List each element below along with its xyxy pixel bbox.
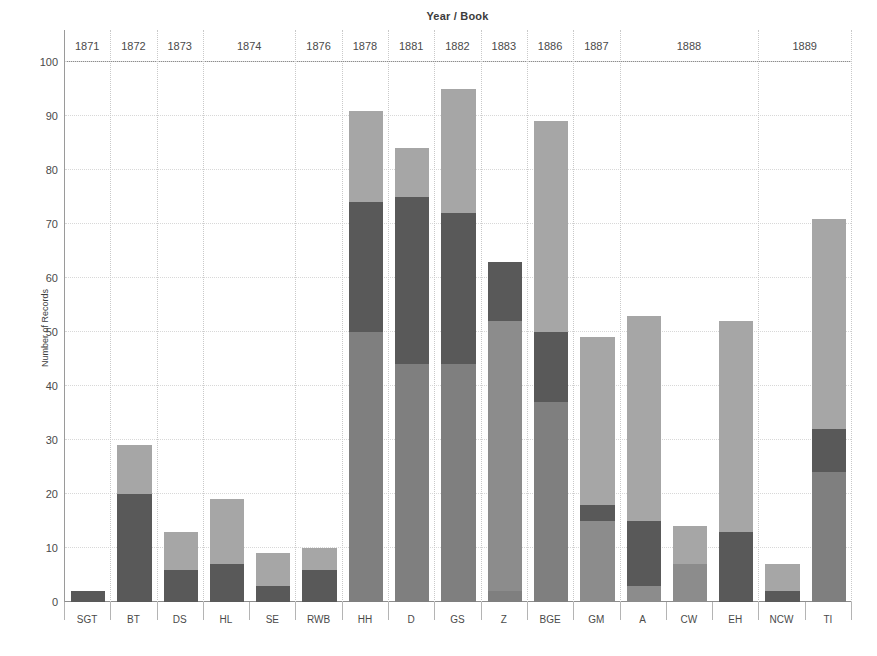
year-label-1887: 1887 — [573, 30, 619, 62]
y-tick-label-60: 60 — [46, 272, 65, 284]
bar-segment-CW-1[interactable] — [673, 564, 707, 602]
year-label-1876: 1876 — [295, 30, 341, 62]
bar-segment-HH-2[interactable] — [349, 202, 383, 332]
book-label-GM: GM — [573, 606, 619, 632]
bar-EH[interactable] — [719, 62, 753, 602]
bar-segment-NCW-1[interactable] — [765, 591, 799, 602]
bar-SE[interactable] — [256, 62, 290, 602]
bar-segment-A-3[interactable] — [627, 316, 661, 521]
bar-BT[interactable] — [117, 62, 151, 602]
bar-segment-EH-2[interactable] — [719, 321, 753, 532]
bar-segment-TI-1[interactable] — [812, 472, 846, 602]
bar-Z[interactable] — [488, 62, 522, 602]
bar-GM[interactable] — [580, 62, 614, 602]
bar-A[interactable] — [627, 62, 661, 602]
year-separator-1878 — [342, 30, 343, 602]
book-separator-15 — [758, 602, 759, 620]
bar-RWB[interactable] — [302, 62, 336, 602]
bar-segment-GS-1[interactable] — [441, 364, 475, 602]
book-label-A: A — [620, 606, 666, 632]
bar-segment-HL-2[interactable] — [210, 499, 244, 564]
y-tick-label-100: 100 — [40, 56, 65, 68]
bar-TI[interactable] — [812, 62, 846, 602]
bar-segment-HH-1[interactable] — [349, 332, 383, 602]
bar-segment-SGT-1[interactable] — [71, 591, 105, 602]
bar-SGT[interactable] — [71, 62, 105, 602]
stacked-bar-chart-figure: Year / Book Number of Records 1871187218… — [0, 0, 877, 656]
bar-segment-GS-2[interactable] — [441, 213, 475, 364]
bar-segment-BGE-2[interactable] — [534, 332, 568, 402]
bar-segment-RWB-2[interactable] — [302, 548, 336, 570]
y-tick-label-70: 70 — [46, 218, 65, 230]
bar-segment-HH-3[interactable] — [349, 111, 383, 203]
book-label-EH: EH — [712, 606, 758, 632]
bar-DS[interactable] — [164, 62, 198, 602]
y-tick-label-90: 90 — [46, 110, 65, 122]
y-tick-label-10: 10 — [46, 542, 65, 554]
bar-segment-TI-3[interactable] — [812, 219, 846, 430]
bar-BGE[interactable] — [534, 62, 568, 602]
year-separator-1883 — [481, 30, 482, 602]
book-separator-1871 — [64, 602, 65, 620]
year-group-axis: 1871187218731874187618781881188218831886… — [64, 30, 851, 62]
bar-segment-RWB-1[interactable] — [302, 570, 336, 602]
y-tick-label-30: 30 — [46, 434, 65, 446]
bar-segment-D-3[interactable] — [395, 148, 429, 197]
bar-segment-D-1[interactable] — [395, 364, 429, 602]
bar-segment-GS-3[interactable] — [441, 89, 475, 213]
bar-D[interactable] — [395, 62, 429, 602]
bar-segment-SE-1[interactable] — [256, 586, 290, 602]
y-tick-label-40: 40 — [46, 380, 65, 392]
book-label-HH: HH — [342, 606, 388, 632]
bar-segment-GM-2[interactable] — [580, 505, 614, 521]
bar-segment-DS-1[interactable] — [164, 570, 198, 602]
book-label-BT: BT — [110, 606, 156, 632]
year-separator-1882 — [434, 30, 435, 602]
book-label-D: D — [388, 606, 434, 632]
book-separator-6 — [342, 602, 343, 620]
bar-segment-BT-2[interactable] — [117, 445, 151, 494]
bar-HL[interactable] — [210, 62, 244, 602]
bar-segment-A-2[interactable] — [627, 521, 661, 586]
bar-segment-NCW-2[interactable] — [765, 564, 799, 591]
year-label-1888: 1888 — [620, 30, 759, 62]
book-label-NCW: NCW — [758, 606, 804, 632]
bar-segment-SE-2[interactable] — [256, 553, 290, 585]
book-separator-3 — [203, 602, 204, 620]
book-label-SE: SE — [249, 606, 295, 632]
year-separator-1874 — [203, 30, 204, 602]
book-separator-1 — [110, 602, 111, 620]
bar-segment-Z-3[interactable] — [488, 262, 522, 321]
book-separator-13 — [666, 602, 667, 620]
book-separator-2 — [157, 602, 158, 620]
bar-HH[interactable] — [349, 62, 383, 602]
book-separator-end — [851, 602, 852, 620]
bar-segment-Z-1[interactable] — [488, 591, 522, 602]
bar-segment-BGE-3[interactable] — [534, 121, 568, 332]
bar-segment-GM-3[interactable] — [580, 337, 614, 504]
bar-segment-BGE-1[interactable] — [534, 402, 568, 602]
book-separator-7 — [388, 602, 389, 620]
year-separator-1889 — [758, 30, 759, 602]
year-separator-end — [851, 30, 852, 602]
book-label-HL: HL — [203, 606, 249, 632]
bar-segment-TI-2[interactable] — [812, 429, 846, 472]
year-label-1874: 1874 — [203, 30, 296, 62]
bar-segment-A-1[interactable] — [627, 586, 661, 602]
bar-NCW[interactable] — [765, 62, 799, 602]
bar-segment-HL-1[interactable] — [210, 564, 244, 602]
bar-segment-GM-1[interactable] — [580, 521, 614, 602]
bar-segment-CW-2[interactable] — [673, 526, 707, 564]
book-label-RWB: RWB — [295, 606, 341, 632]
bar-segment-Z-2[interactable] — [488, 321, 522, 591]
book-label-Z: Z — [481, 606, 527, 632]
bar-GS[interactable] — [441, 62, 475, 602]
bar-segment-BT-1[interactable] — [117, 494, 151, 602]
bar-segment-EH-1[interactable] — [719, 532, 753, 602]
bar-segment-D-2[interactable] — [395, 197, 429, 364]
book-separator-11 — [573, 602, 574, 620]
book-label-CW: CW — [666, 606, 712, 632]
bar-CW[interactable] — [673, 62, 707, 602]
year-label-1873: 1873 — [157, 30, 203, 62]
bar-segment-DS-2[interactable] — [164, 532, 198, 570]
